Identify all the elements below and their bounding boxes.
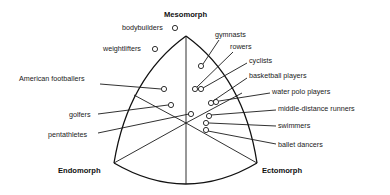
point-rowers <box>192 86 197 91</box>
label-water-polo-players: water polo players <box>271 87 331 96</box>
point-basketball-players <box>208 100 213 105</box>
label-swimmers: swimmers <box>278 121 311 130</box>
label-basketball-players: basketball players <box>249 71 307 80</box>
label-gymnasts: gymnasts <box>215 30 246 39</box>
label-ballet-dancers: ballet dancers <box>278 140 323 149</box>
label-american-footballers: American footballers <box>19 74 85 83</box>
point-water-polo-players <box>213 99 218 104</box>
label-pentathletes: pentathletes <box>48 130 88 139</box>
point-middle-distance-runners <box>206 113 211 118</box>
point-gymnasts <box>198 63 203 68</box>
chart-outline-right-arc <box>186 36 257 163</box>
label-cyclists: cyclists <box>249 56 273 65</box>
vertex-label-mesomorph: Mesomorph <box>164 10 207 19</box>
label-bodybuilders: bodybuilders <box>122 23 163 32</box>
leader-american-footballers <box>100 84 161 89</box>
label-weightlifters: weightlifters <box>102 44 141 53</box>
leader-golfers <box>98 105 168 114</box>
point-weightlifters <box>152 46 157 51</box>
label-golfers: golfers <box>69 110 91 119</box>
leader-ballet-dancers <box>208 131 276 144</box>
axis-upper-right <box>186 93 242 123</box>
point-ballet-dancers <box>203 127 208 132</box>
label-rowers: rowers <box>230 42 252 51</box>
point-golfers <box>168 102 173 107</box>
vertex-label-ectomorph: Ectomorph <box>262 166 302 175</box>
leader-swimmers <box>209 123 276 126</box>
point-swimmers <box>203 120 208 125</box>
axis-upper-left <box>134 95 186 123</box>
chart-outline-left-arc <box>114 36 186 163</box>
point-pentathletes <box>188 111 193 116</box>
label-middle-distance-runners: middle-distance runners <box>278 104 355 113</box>
leader-water-polo-players <box>219 93 270 101</box>
axis-endomorph <box>114 123 186 163</box>
leader-pentathletes <box>98 114 189 133</box>
axis-ectomorph <box>186 123 257 163</box>
leader-cyclists <box>203 63 247 88</box>
somatochart: Mesomorph Endomorph Ectomorph bodybuilde… <box>0 0 390 195</box>
leader-rowers <box>197 52 233 87</box>
point-bodybuilders <box>172 25 177 30</box>
chart-outline-bottom-arc <box>114 163 257 184</box>
point-cyclists <box>198 86 203 91</box>
vertex-label-endomorph: Endomorph <box>58 166 101 175</box>
point-american-footballers <box>161 86 166 91</box>
